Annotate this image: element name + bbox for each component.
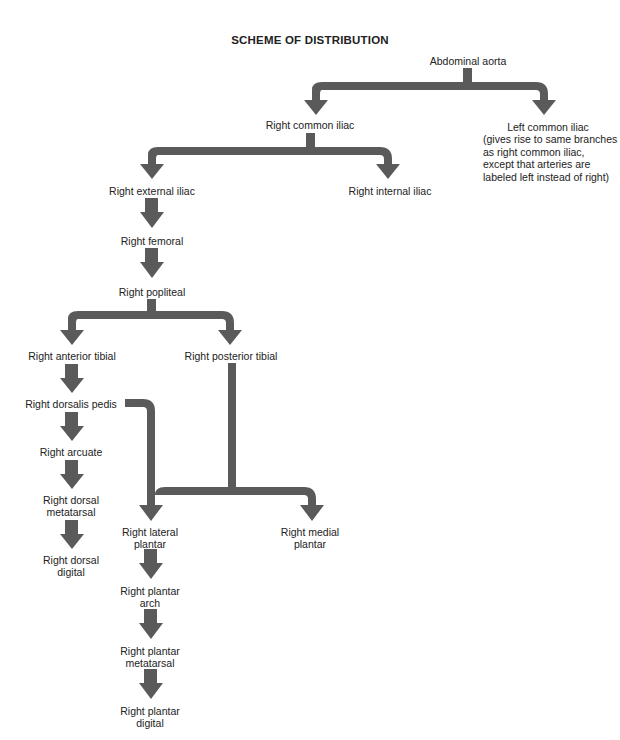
label-line: plantar [122, 538, 178, 550]
label-line: Right plantar [120, 705, 180, 717]
arrow-right-common-iliac-icon [304, 100, 328, 115]
label-line: arch [120, 597, 180, 609]
node-right-external-iliac: Right external iliac [109, 185, 195, 197]
arrow-posterior-tibial-icon [218, 330, 242, 345]
node-abdominal-aorta: Abdominal aorta [430, 55, 506, 67]
node-right-popliteal: Right popliteal [119, 286, 186, 298]
label-line: Right plantar [120, 585, 180, 597]
label-line: Right medial [281, 526, 339, 538]
label-line: Right dorsal [43, 554, 99, 566]
node-right-dorsalis-pedis: Right dorsalis pedis [25, 398, 117, 410]
node-right-femoral: Right femoral [121, 235, 183, 247]
arrow-dorsalis-pedis-icon [60, 378, 84, 393]
label-line: Right lateral [122, 526, 178, 538]
arrow-left-common-iliac-icon [532, 100, 556, 115]
aorta-branch-bar [312, 82, 548, 102]
node-left-common-iliac: Left common iliac [507, 121, 589, 133]
left-common-iliac-note: (gives rise to same branches as right co… [483, 133, 618, 183]
aorta-stem [463, 68, 472, 82]
popliteal-branch-bar [68, 311, 234, 332]
arrow-plantar-arch-icon [139, 563, 163, 579]
arrow-popliteal-icon [140, 262, 164, 278]
node-right-plantar-metatarsal: Right plantar metatarsal [120, 645, 180, 669]
dorsalis-to-lateral-plantar-connector [125, 399, 155, 507]
arrow-lateral-plantar-icon [139, 505, 163, 521]
arrow-dorsal-metatarsal-icon [60, 474, 84, 489]
node-right-dorsal-digital: Right dorsal digital [43, 554, 99, 578]
node-right-plantar-arch: Right plantar arch [120, 585, 180, 609]
arrow-femoral-icon [140, 212, 164, 228]
label-line: metatarsal [120, 657, 180, 669]
node-right-medial-plantar: Right medial plantar [281, 526, 339, 550]
label-line: metatarsal [43, 506, 99, 518]
label-line: Right plantar [120, 645, 180, 657]
node-right-lateral-plantar: Right lateral plantar [122, 526, 178, 550]
posterior-tibial-stem [228, 363, 236, 487]
label-line: digital [43, 566, 99, 578]
arrow-arcuate-icon [60, 426, 84, 441]
arrow-plantar-digital-icon [139, 683, 163, 699]
common-iliac-branch-bar [148, 147, 392, 166]
label-line: Right dorsal [43, 494, 99, 506]
arrow-anterior-tibial-icon [60, 330, 84, 345]
flow-arrows [0, 0, 620, 740]
node-right-internal-iliac: Right internal iliac [349, 185, 432, 197]
node-right-dorsal-metatarsal: Right dorsal metatarsal [43, 494, 99, 518]
node-right-plantar-digital: Right plantar digital [120, 705, 180, 729]
arrow-plantar-metatarsal-icon [139, 623, 163, 639]
label-line: plantar [281, 538, 339, 550]
arrow-dorsal-digital-icon [60, 534, 84, 549]
label-line: digital [120, 717, 180, 729]
arrow-medial-plantar-icon [300, 505, 324, 521]
arrow-internal-iliac-icon [376, 164, 400, 179]
plantar-branch-bar [155, 487, 316, 507]
arrow-external-iliac-icon [140, 164, 164, 179]
node-right-arcuate: Right arcuate [40, 446, 102, 458]
node-right-posterior-tibial: Right posterior tibial [185, 350, 278, 362]
common-iliac-stem [306, 133, 315, 147]
node-right-common-iliac: Right common iliac [266, 119, 355, 131]
node-right-anterior-tibial: Right anterior tibial [28, 350, 116, 362]
